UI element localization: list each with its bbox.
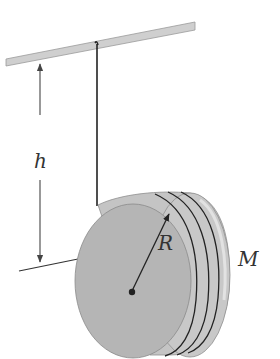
floor-reference-line: [19, 259, 78, 271]
ceiling-bar: [6, 22, 195, 66]
height-label: h: [34, 149, 47, 173]
diagram-canvas: h R M: [0, 0, 280, 359]
yo-yo-diagram: h R M: [0, 0, 280, 359]
string: [95, 42, 98, 206]
center-point: [129, 289, 135, 295]
radius-label: R: [157, 231, 173, 255]
mass-label: M: [237, 247, 259, 271]
disk-face: [75, 204, 191, 358]
